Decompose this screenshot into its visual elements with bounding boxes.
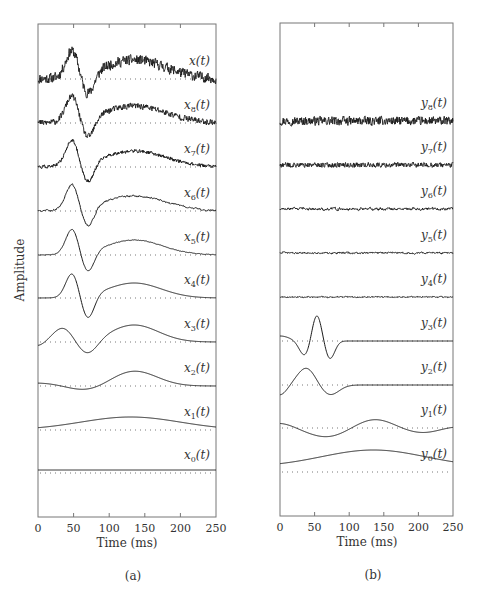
figure: 050100150200250 x(t)x8(t)x7(t)x6(t)x5(t)… xyxy=(0,0,477,599)
trace-y6t xyxy=(280,207,453,211)
x-tick-label: 250 xyxy=(206,522,227,535)
trace-label: y7(t) xyxy=(420,140,447,156)
trace-y7t xyxy=(280,162,453,167)
trace-label: x5(t) xyxy=(184,230,210,246)
x-tick-label: 0 xyxy=(35,522,42,535)
trace-y4t xyxy=(280,296,453,298)
trace-label: x0(t) xyxy=(184,448,210,464)
x-tick-label: 100 xyxy=(99,522,120,535)
trace-label: x8(t) xyxy=(184,98,210,114)
panel-b-caption: (b) xyxy=(364,568,381,582)
x-tick-label: 200 xyxy=(170,522,191,535)
panel-a-caption: (a) xyxy=(125,569,142,583)
trace-label: x1(t) xyxy=(184,405,210,421)
trace-label: y5(t) xyxy=(420,228,447,244)
trace-label: y1(t) xyxy=(420,403,447,419)
trace-label: x4(t) xyxy=(184,273,210,289)
x-tick-label: 200 xyxy=(408,521,429,534)
x-tick-label: 50 xyxy=(67,522,81,535)
panel-b-x-axis-label: Time (ms) xyxy=(336,535,397,549)
trace-y5t xyxy=(280,252,453,255)
x-tick-label: 0 xyxy=(277,521,284,534)
trace-label: y2(t) xyxy=(420,360,447,376)
trace-label: y3(t) xyxy=(420,316,447,332)
trace-label: x(t) xyxy=(189,54,210,68)
y-axis-label: Amplitude xyxy=(13,239,27,303)
trace-label: x6(t) xyxy=(184,186,210,202)
x-tick-label: 250 xyxy=(443,521,464,534)
trace-label: y8(t) xyxy=(420,96,447,112)
trace-label: y0(t) xyxy=(420,447,447,463)
panel-b-trace-labels: y8(t)y7(t)y6(t)y5(t)y4(t)y3(t)y2(t)y1(t)… xyxy=(420,96,447,463)
trace-label: x2(t) xyxy=(184,361,210,377)
panel-a-x-axis-label: Time (ms) xyxy=(96,536,157,550)
trace-label: y6(t) xyxy=(420,184,447,200)
trace-label: y4(t) xyxy=(420,272,447,288)
x-tick-label: 100 xyxy=(339,521,360,534)
x-tick-label: 150 xyxy=(373,521,394,534)
x-tick-label: 150 xyxy=(134,522,155,535)
panel-a-trace-labels: x(t)x8(t)x7(t)x6(t)x5(t)x4(t)x3(t)x2(t)x… xyxy=(184,54,210,464)
trace-label: x7(t) xyxy=(184,142,210,158)
x-tick-label: 50 xyxy=(308,521,322,534)
trace-label: x3(t) xyxy=(184,317,210,333)
